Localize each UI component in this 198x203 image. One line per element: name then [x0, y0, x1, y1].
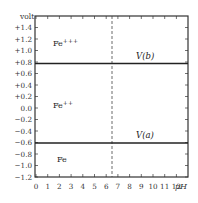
region-label-fe3: Fe+++	[53, 37, 78, 48]
x-tick-label: 5	[92, 182, 97, 191]
y-tick-label: −0.2	[15, 115, 32, 124]
v-b-label: V(b)	[136, 51, 154, 61]
y-axis-title: volt	[19, 12, 34, 21]
x-tick-label: 4	[81, 182, 86, 191]
y-tick-label: +0.6	[15, 69, 33, 78]
x-tick-label: 6	[104, 182, 109, 191]
region-label-fe: Fe	[57, 155, 67, 164]
region-label-fe2: Fe++	[53, 99, 73, 110]
y-tick-label: +0.2	[15, 92, 32, 101]
y-tick-label: +0.8	[15, 58, 33, 67]
x-tick-label: 1	[45, 182, 50, 191]
x-tick-label: 7	[116, 182, 121, 191]
y-axis-ticks: +1.4+1.2+1.0+0.8+0.6+0.4+0.20.0−0.2−0.4−…	[15, 23, 188, 182]
x-tick-label: 10	[148, 182, 158, 191]
pourbaix-chart: +1.4+1.2+1.0+0.8+0.6+0.4+0.20.0−0.2−0.4−…	[0, 0, 198, 203]
y-tick-label: −1.2	[15, 173, 32, 182]
y-tick-label: +1.0	[15, 46, 33, 55]
x-tick-label: 9	[139, 182, 144, 191]
y-tick-label: −0.4	[15, 127, 33, 136]
x-tick-label: 2	[57, 182, 62, 191]
y-tick-label: +1.4	[15, 23, 33, 32]
x-axis-title: pH	[175, 182, 188, 191]
x-tick-label: 3	[69, 182, 74, 191]
x-tick-label: 0	[34, 182, 39, 191]
v-a-label: V(a)	[136, 130, 154, 140]
y-tick-label: −0.8	[15, 150, 33, 159]
y-tick-label: 0.0	[21, 104, 33, 113]
x-tick-label: 8	[127, 182, 132, 191]
x-tick-label: 11	[160, 182, 169, 191]
y-tick-label: −1.0	[15, 161, 33, 170]
y-tick-label: +1.2	[15, 35, 32, 44]
y-tick-label: −0.6	[15, 138, 33, 147]
y-tick-label: +0.4	[15, 81, 33, 90]
